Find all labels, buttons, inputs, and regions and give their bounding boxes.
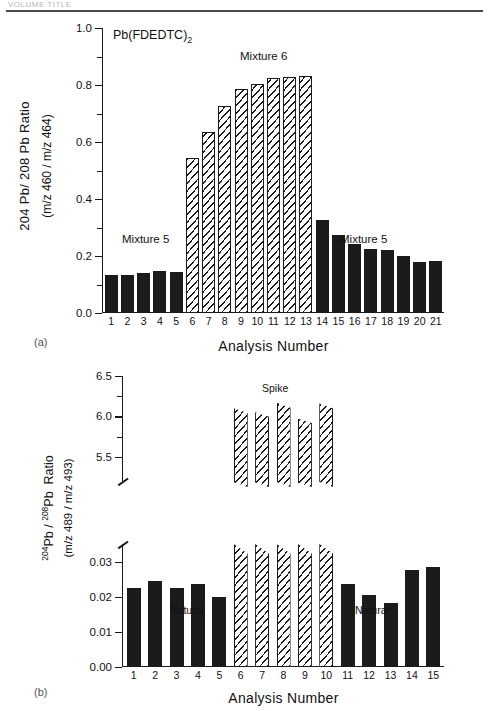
panel-b-bar-spike-lower <box>298 544 312 667</box>
panel-a-bar <box>202 132 215 313</box>
panel-a-x-tick-label: 21 <box>430 315 442 327</box>
panel-b-x-tick-label: 7 <box>259 669 265 681</box>
panel-a-bar <box>364 249 377 313</box>
panel-a-x-tick-label: 17 <box>365 315 377 327</box>
panel-b-annotation: Natural <box>355 604 389 616</box>
panel-b-bar-spike-lower <box>234 544 248 667</box>
panel-b-bar-spike-lower <box>319 544 333 667</box>
panel-a-bar <box>121 275 134 313</box>
panel-b-bar <box>191 584 205 667</box>
panel-b-bar <box>170 588 184 667</box>
panel-b-bar-spike-upper <box>255 412 269 487</box>
panel-a-bar <box>316 220 329 313</box>
panel-a-x-tick-label: 8 <box>222 315 228 327</box>
panel-b-y-tick-label: 6.0 <box>96 410 112 422</box>
panel-b-y-axis-label-1: 204Pb / 208Pb Ratio <box>40 455 56 561</box>
panel-b-y-tick-label: 5.5 <box>96 451 112 463</box>
panel-b-x-tick-label: 4 <box>195 669 201 681</box>
panel-b-y-tick-label: 0.03 <box>90 556 112 568</box>
panel-b-x-tick-label: 13 <box>385 669 397 681</box>
panel-a-y-tick <box>95 199 102 200</box>
panel-b-x-tick-label: 9 <box>302 669 308 681</box>
panel-b-y-tick <box>115 667 122 668</box>
panel-a-x-tick-label: 15 <box>333 315 345 327</box>
panel-a-bar <box>381 250 394 313</box>
panel-b-y-tick <box>115 597 122 598</box>
panel-a-y-minor-tick <box>97 114 102 115</box>
panel-a-y-minor-tick <box>97 228 102 229</box>
panel-b: 204Pb / 208Pb Ratio (m/z 489 / m/z 493) … <box>0 368 489 711</box>
panel-b-bar <box>148 581 162 667</box>
panel-b-x-tick-label: 6 <box>238 669 244 681</box>
panel-a-y-tick <box>95 313 102 314</box>
running-head: VOLUME TITLE <box>8 0 128 7</box>
panel-a-y-tick <box>95 28 102 29</box>
panel-b-x-tick-label: 12 <box>363 669 375 681</box>
panel-b-x-tick-label: 11 <box>342 669 353 681</box>
panel-a-y-axis-label-2: (m/z 460 / m/z 464) <box>40 114 54 217</box>
panel-a-x-tick-label: 10 <box>251 315 263 327</box>
panel-a-bar <box>186 158 199 313</box>
panel-a-y-minor-tick <box>97 285 102 286</box>
panel-a-x-tick-label: 5 <box>173 315 179 327</box>
panel-a-annotation: Mixture 5 <box>340 233 387 245</box>
panel-a-x-tick-label: 13 <box>300 315 312 327</box>
panel-a-bar <box>251 84 264 313</box>
panel-a-y-tick-label: 0.0 <box>76 307 92 319</box>
panel-a-x-tick-label: 18 <box>381 315 393 327</box>
panel-b-bar <box>341 584 355 667</box>
panel-b-y-tick <box>115 632 122 633</box>
panel-b-bar-spike-upper <box>277 403 291 487</box>
panel-a-bar <box>105 275 118 313</box>
panel-a-x-tick-label: 11 <box>268 315 279 327</box>
figure-root: VOLUME TITLE Pb(FDEDTC)2 204 Pb/ 208 Pb … <box>0 0 489 711</box>
panel-b-y-tick <box>115 457 122 458</box>
panel-a-x-tick-label: 19 <box>398 315 410 327</box>
panel-a-bar <box>429 261 442 313</box>
panel-a-x-tick-label: 20 <box>414 315 426 327</box>
panel-b-y-minor-tick <box>117 396 122 397</box>
panel-b-y-tick-label: 0.02 <box>90 591 112 603</box>
panel-a-x-tick-label: 7 <box>206 315 212 327</box>
panel-a-bar <box>153 271 166 313</box>
panel-b-x-tick-label: 10 <box>320 669 332 681</box>
panel-b-annotation: Spike <box>262 382 288 394</box>
panel-a-x-tick-label: 1 <box>108 315 114 327</box>
panel-a-bar <box>299 76 312 313</box>
y-label-sup-208: 208 <box>40 507 50 521</box>
panel-b-bar-spike-lower <box>277 544 291 667</box>
panel-b-x-tick-label: 1 <box>131 669 137 681</box>
panel-a-y-tick-label: 0.8 <box>76 79 92 91</box>
panel-b-x-tick-label: 5 <box>216 669 222 681</box>
panel-a-annotation: Mixture 5 <box>122 233 169 245</box>
panel-a-x-tick-label: 3 <box>141 315 147 327</box>
panel-b-tag: (b) <box>34 686 47 698</box>
panel-a-y-minor-tick <box>97 57 102 58</box>
panel-a-bar <box>137 273 150 313</box>
panel-a-annotation: Mixture 6 <box>240 50 287 62</box>
panel-a-bar <box>413 262 426 313</box>
panel-b-bar <box>426 567 440 667</box>
panel-b-bar-spike-upper <box>234 408 248 487</box>
panel-a-y-tick-label: 0.4 <box>76 193 92 205</box>
panel-a-bar <box>267 78 280 313</box>
panel-b-x-tick-label: 15 <box>427 669 439 681</box>
panel-b-y-tick <box>115 416 122 417</box>
panel-a-bar <box>283 77 296 313</box>
panel-b-y-tick <box>115 376 122 377</box>
panel-a-y-tick-label: 1.0 <box>76 22 92 34</box>
panel-a-bar <box>332 235 345 313</box>
panel-a-y-axis-label-1: 204 Pb/ 208 Pb Ratio <box>17 101 32 231</box>
panel-a-x-tick-label: 6 <box>189 315 195 327</box>
panel-a-y-tick <box>95 256 102 257</box>
panel-a: Pb(FDEDTC)2 204 Pb/ 208 Pb Ratio (m/z 46… <box>0 18 489 358</box>
panel-a-plot-area <box>103 28 444 313</box>
panel-b-bar-spike-upper <box>298 419 312 487</box>
panel-a-y-tick <box>95 85 102 86</box>
panel-a-bar <box>235 89 248 313</box>
panel-b-x-tick-label: 3 <box>174 669 180 681</box>
header-rule <box>6 10 483 12</box>
panel-b-x-tick-label: 8 <box>281 669 287 681</box>
panel-a-x-tick-label: 2 <box>124 315 130 327</box>
panel-b-y-tick-label: 0.00 <box>90 661 112 673</box>
